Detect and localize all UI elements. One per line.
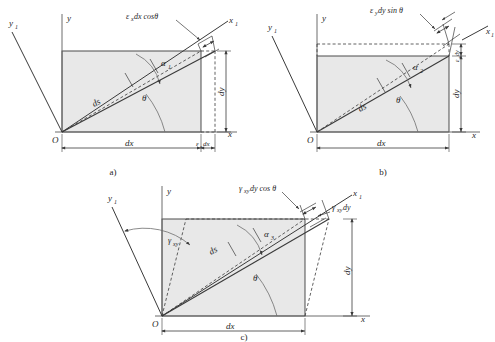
y-axis-label-b: y xyxy=(321,13,326,23)
elongation-label-c: γ xy dy cos θ xyxy=(239,184,276,194)
svg-text:xy: xy xyxy=(243,188,250,194)
svg-text:x: x xyxy=(485,26,490,36)
svg-text:dy: dy xyxy=(343,203,351,212)
svg-text:1: 1 xyxy=(168,64,171,70)
svg-text:dy: dy xyxy=(454,50,460,56)
svg-text:1: 1 xyxy=(359,194,362,200)
projection-connector2-a xyxy=(212,36,215,51)
panel-caption-b: b) xyxy=(379,167,387,177)
projection-line-c xyxy=(300,203,316,212)
panel-a: y x O x 1 y 1 ε x dx cosθ ds θ α 1 dx ε … xyxy=(8,12,238,177)
dim-dy-label-a: dy xyxy=(216,88,226,97)
x1-axis-label-c: x 1 xyxy=(352,188,362,200)
shear-dy-label-c: γ xy dy xyxy=(332,203,351,213)
x1-axis-label-b: x 1 xyxy=(485,26,494,38)
x-axis-label-c: x xyxy=(360,314,365,324)
svg-text:xy: xy xyxy=(336,207,343,213)
panel-caption-c: c) xyxy=(241,332,248,342)
elongation-leader2-b xyxy=(442,12,455,20)
theta-label-c: θ xyxy=(253,273,258,283)
svg-text:ε: ε xyxy=(370,6,374,15)
projection-line2-a xyxy=(205,49,219,57)
svg-text:1: 1 xyxy=(15,24,18,30)
svg-text:α: α xyxy=(264,229,269,239)
origin-label-c: O xyxy=(152,319,159,329)
svg-text:2: 2 xyxy=(420,68,423,74)
svg-text:ε: ε xyxy=(126,12,130,21)
projection-connector-b xyxy=(443,24,449,44)
projection-connector2-c xyxy=(322,200,329,219)
svg-text:y: y xyxy=(8,18,13,28)
origin-label-a: O xyxy=(52,135,59,145)
svg-text:γ: γ xyxy=(332,203,336,212)
dim-ex-label-a: ε x dx xyxy=(196,140,211,149)
x-axis-label-a: x xyxy=(227,129,232,139)
y-axis-label-c: y xyxy=(166,186,171,196)
panel-b: y x O x 1 y 1 ε y dy sin θ ds θ α 2 dx d… xyxy=(267,6,494,177)
svg-text:ε: ε xyxy=(196,140,199,148)
y-axis-label-a: y xyxy=(66,13,71,23)
elongation-leader-b xyxy=(420,14,435,29)
y1-axis-label-b: y 1 xyxy=(267,22,277,34)
y1-axis-label-a: y 1 xyxy=(8,18,18,30)
svg-text:α: α xyxy=(161,58,166,68)
projection-connector-c xyxy=(300,205,305,219)
x1-axis-label-a: x 1 xyxy=(228,15,238,27)
strain-transformation-figure: y x O x 1 y 1 ε x dx cosθ ds θ α 1 dx ε … xyxy=(0,0,495,342)
dim-dx-label-b: dx xyxy=(377,138,386,148)
svg-text:y: y xyxy=(267,22,272,32)
svg-text:1: 1 xyxy=(114,199,117,205)
theta-label-b: θ xyxy=(396,95,401,105)
svg-text:1: 1 xyxy=(274,28,277,34)
dim-dx-label-c: dx xyxy=(226,321,235,331)
y1-axis-b xyxy=(272,36,317,132)
x-axis-label-b: x xyxy=(471,130,476,140)
svg-text:x: x xyxy=(228,15,233,25)
dim-dy-label-c: dy xyxy=(342,267,352,276)
svg-text:ε: ε xyxy=(454,59,460,62)
svg-text:α: α xyxy=(413,62,418,72)
y1-axis-label-c: y 1 xyxy=(107,193,117,205)
svg-text:γ: γ xyxy=(239,184,243,193)
svg-text:1: 1 xyxy=(491,32,494,38)
elongation-label-b: ε y dy sin θ xyxy=(370,6,403,16)
svg-text:dx: dx xyxy=(203,140,211,148)
svg-text:3: 3 xyxy=(270,235,274,241)
y1-axis-c xyxy=(112,207,162,316)
origin-label-b: O xyxy=(307,135,314,145)
dim-dy-label-b: dy xyxy=(451,90,461,99)
svg-text:dy cos θ: dy cos θ xyxy=(250,184,276,193)
elongation-arrow-b xyxy=(437,26,449,33)
elongation-leader-c xyxy=(282,192,299,209)
panel-c: y x O x 1 y 1 γ xy dy cos θ γ xy dy γ xy… xyxy=(107,184,370,342)
svg-text:y: y xyxy=(107,193,112,203)
x1-axis-outer-b xyxy=(462,26,488,40)
projection-connector-a xyxy=(198,44,201,51)
elongation-arrow-a xyxy=(203,41,214,47)
theta-label-a: θ xyxy=(142,93,147,103)
shear-right-c xyxy=(305,219,329,316)
panel-caption-a: a) xyxy=(110,167,117,177)
elongation-arrow-c xyxy=(303,207,316,214)
y1-axis-a xyxy=(12,32,62,132)
svg-text:dy sin θ: dy sin θ xyxy=(378,6,403,15)
elongation-label-a: ε x dx cosθ xyxy=(126,12,158,22)
svg-text:1: 1 xyxy=(235,21,238,27)
svg-text:x: x xyxy=(352,188,357,198)
dim-dx-label-a: dx xyxy=(125,138,134,148)
elongation-leader-a xyxy=(176,20,200,40)
svg-text:dx cosθ: dx cosθ xyxy=(134,12,158,21)
svg-text:xy: xy xyxy=(172,241,179,247)
